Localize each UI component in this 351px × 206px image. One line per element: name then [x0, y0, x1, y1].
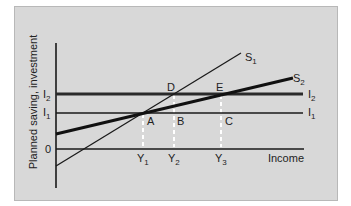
tick-label-y2: Y2	[168, 152, 180, 167]
tick-label-i2: I2	[43, 88, 51, 103]
line-label-s1: S1	[245, 51, 257, 66]
saving-investment-chart: Planned saving, investment I2 I1 0 S1 S2…	[0, 0, 351, 206]
tick-label-zero: 0	[45, 143, 51, 155]
point-label-d: D	[167, 81, 175, 93]
point-label-b: B	[177, 115, 184, 127]
point-label-a: A	[147, 115, 155, 127]
tick-label-y1: Y1	[137, 152, 149, 167]
x-axis-label: Income	[268, 152, 304, 164]
point-label-c: C	[225, 115, 233, 127]
tick-label-y3: Y3	[215, 152, 227, 167]
y-axis-label: Planned saving, investment	[27, 35, 39, 170]
point-label-e: E	[216, 81, 223, 93]
line-label-i2: I2	[308, 88, 316, 103]
tick-label-i1: I1	[43, 106, 51, 121]
line-label-i1: I1	[308, 106, 316, 121]
line-label-s2: S2	[293, 72, 305, 87]
